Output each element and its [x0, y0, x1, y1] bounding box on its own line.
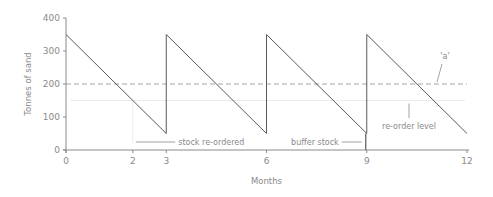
- x-tick-label: 12: [461, 156, 472, 166]
- x-axis-label: Months: [251, 176, 283, 186]
- chart: 01002003004000236912 stock re-orderedbuf…: [0, 0, 493, 197]
- a-label: 'a': [440, 52, 449, 61]
- x-tick-label: 9: [364, 156, 370, 166]
- y-tick-label: 100: [43, 112, 60, 122]
- stock-reordered-label: stock re-ordered: [178, 138, 244, 147]
- reorder-level-label: re-order level: [382, 122, 436, 131]
- a-leader: [437, 64, 442, 82]
- x-tick-label: 2: [130, 156, 136, 166]
- y-tick-label: 300: [43, 46, 60, 56]
- x-tick-label: 3: [163, 156, 169, 166]
- x-tick-label: 6: [264, 156, 270, 166]
- y-tick-label: 400: [43, 13, 60, 23]
- y-tick-label: 200: [43, 79, 60, 89]
- y-tick-label: 0: [54, 145, 60, 155]
- buffer-stock-label: buffer stock: [291, 138, 339, 147]
- x-tick-label: 0: [63, 156, 69, 166]
- y-axis-label: Tonnes of sand: [23, 52, 33, 116]
